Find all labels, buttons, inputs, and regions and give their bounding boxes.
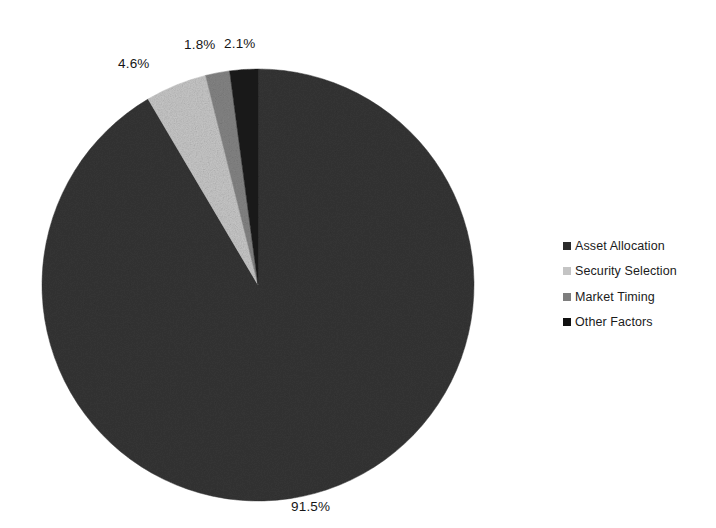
legend: Asset Allocation Security Selection Mark… xyxy=(563,233,711,335)
legend-item-market-timing[interactable]: Market Timing xyxy=(563,284,711,310)
slice-label-security-selection: 4.6% xyxy=(118,57,150,71)
pie-chart: 4.6% 1.8% 2.1% 91.5% Asset Allocation Se… xyxy=(0,0,716,528)
legend-swatch-icon xyxy=(563,267,571,275)
pie-slices xyxy=(42,69,474,501)
slice-label-asset-allocation: 91.5% xyxy=(291,500,330,514)
legend-item-label: Market Timing xyxy=(575,291,655,304)
legend-swatch-icon xyxy=(563,293,571,301)
legend-item-asset-allocation[interactable]: Asset Allocation xyxy=(563,233,711,259)
legend-swatch-icon xyxy=(563,318,571,326)
slice-label-other-factors: 2.1% xyxy=(224,37,256,51)
legend-item-other-factors[interactable]: Other Factors xyxy=(563,310,711,336)
legend-item-security-selection[interactable]: Security Selection xyxy=(563,259,711,285)
legend-item-label: Asset Allocation xyxy=(575,240,665,253)
legend-item-label: Security Selection xyxy=(575,265,677,278)
slice-label-market-timing: 1.8% xyxy=(184,38,216,52)
legend-swatch-icon xyxy=(563,242,571,250)
legend-item-label: Other Factors xyxy=(575,316,653,329)
